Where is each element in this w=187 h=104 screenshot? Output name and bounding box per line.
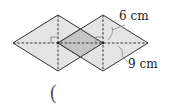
answer-blank-paren: ( — [50, 82, 57, 102]
top-dimension-label: 6 cm — [119, 9, 149, 23]
overlapping-rhombus-figure: 6 cm 9 cm — [0, 0, 187, 104]
center-point-left — [57, 42, 59, 44]
center-point-right — [102, 42, 104, 44]
bottom-dimension-label: 9 cm — [128, 57, 158, 71]
